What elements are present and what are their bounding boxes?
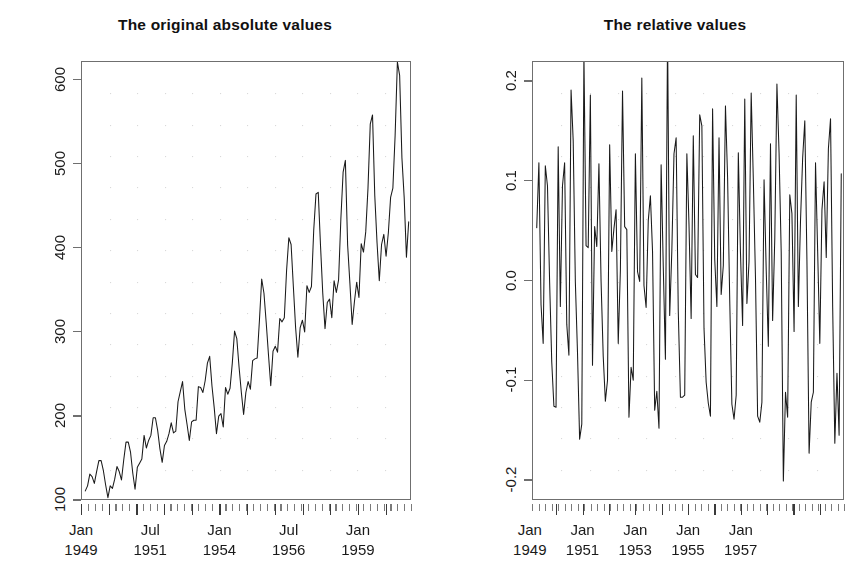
x-tick-minor (565, 504, 566, 511)
x-tick-minor (773, 504, 774, 511)
x-tick-minor (747, 504, 748, 511)
panel-title-absolute: The original absolute values (0, 16, 450, 34)
x-tick-minor (260, 504, 261, 511)
x-label-month: Jan (41, 520, 121, 540)
x-tick-minor (370, 504, 371, 511)
x-label-year: 1957 (701, 540, 781, 560)
y-tick-mark (73, 415, 81, 416)
x-tick-minor (682, 504, 683, 511)
x-tick-minor (349, 504, 350, 511)
x-label-month: Jan (701, 520, 781, 540)
x-tick-minor (721, 504, 722, 511)
x-tick-minor (630, 504, 631, 511)
x-tick-major (358, 504, 359, 515)
y-axis-tick-label: 0.0 (502, 250, 519, 310)
x-axis-tick-label: Jan1949 (41, 520, 121, 560)
x-tick-minor (701, 504, 702, 511)
x-tick-minor (88, 504, 89, 511)
series-absolute (82, 62, 411, 500)
x-tick-minor (578, 504, 579, 511)
x-tick-minor (232, 504, 233, 511)
x-tick-minor (597, 504, 598, 511)
x-tick-major (247, 504, 248, 515)
y-tick-mark (524, 280, 532, 281)
x-tick-major (81, 504, 82, 515)
x-tick-minor (584, 504, 585, 511)
panel-relative-values: The relative values -0.2-0.10.00.10.2 Ja… (450, 0, 794, 585)
x-axis-tick-label: Jan1954 (179, 520, 259, 560)
x-tick-major (793, 504, 794, 515)
x-tick-minor (253, 504, 254, 511)
x-tick-minor (384, 504, 385, 511)
x-tick-major (164, 504, 165, 515)
x-tick-major (136, 504, 137, 515)
x-tick-major (386, 504, 387, 515)
x-axis-tick-label: Jul1956 (249, 520, 329, 560)
x-tick-minor (695, 504, 696, 511)
y-tick-mark (73, 247, 81, 248)
x-tick-minor (675, 504, 676, 511)
x-label-year: 1949 (41, 540, 121, 560)
y-tick-mark (524, 479, 532, 480)
x-tick-minor (591, 504, 592, 511)
x-label-month: Jul (249, 520, 329, 540)
y-tick-mark (524, 180, 532, 181)
x-tick-major (556, 504, 557, 515)
x-tick-minor (280, 504, 281, 511)
y-axis-tick-label: 400 (51, 217, 68, 277)
x-tick-minor (656, 504, 657, 511)
x-tick-minor (552, 504, 553, 511)
x-tick-minor (143, 504, 144, 511)
x-tick-minor (129, 504, 130, 511)
x-tick-minor (390, 504, 391, 511)
x-tick-minor (558, 504, 559, 511)
x-tick-minor (831, 504, 832, 511)
x-tick-minor (844, 504, 845, 511)
x-label-month: Jan (179, 520, 259, 540)
x-tick-major (330, 504, 331, 515)
y-axis-tick-label: -0.2 (502, 450, 519, 510)
series-relative (533, 62, 844, 500)
x-tick-minor (604, 504, 605, 511)
x-tick-minor (760, 504, 761, 511)
y-tick-mark (524, 80, 532, 81)
x-label-year: 1951 (110, 540, 190, 560)
x-label-year: 1954 (179, 540, 259, 560)
x-tick-minor (571, 504, 572, 511)
y-tick-mark (73, 499, 81, 500)
x-tick-minor (287, 504, 288, 511)
x-tick-minor (649, 504, 650, 511)
x-tick-minor (397, 504, 398, 511)
x-tick-minor (267, 504, 268, 511)
x-tick-minor (184, 504, 185, 511)
plot-area-relative (532, 61, 844, 500)
x-tick-minor (177, 504, 178, 511)
x-tick-major (219, 504, 220, 515)
x-tick-major (303, 504, 304, 515)
x-tick-minor (779, 504, 780, 511)
x-tick-minor (122, 504, 123, 511)
x-tick-major (609, 504, 610, 515)
y-axis-tick-label: 0.1 (502, 150, 519, 210)
x-tick-minor (753, 504, 754, 511)
x-tick-minor (102, 504, 103, 511)
panel-absolute-values: The original absolute values 10020030040… (0, 0, 450, 585)
x-tick-minor (617, 504, 618, 511)
x-tick-minor (342, 504, 343, 511)
x-tick-major (662, 504, 663, 515)
x-tick-minor (411, 504, 412, 511)
x-tick-minor (239, 504, 240, 511)
x-tick-minor (335, 504, 336, 511)
x-tick-minor (838, 504, 839, 511)
x-tick-minor (799, 504, 800, 511)
x-tick-minor (157, 504, 158, 511)
x-tick-minor (812, 504, 813, 511)
x-tick-minor (95, 504, 96, 511)
x-tick-minor (198, 504, 199, 511)
x-tick-minor (308, 504, 309, 511)
x-tick-minor (212, 504, 213, 511)
x-tick-minor (294, 504, 295, 511)
x-tick-minor (363, 504, 364, 511)
x-tick-major (688, 504, 689, 515)
